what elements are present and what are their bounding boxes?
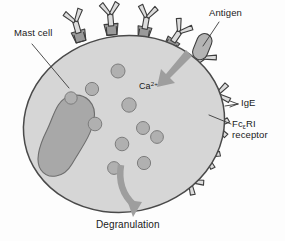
label-fceri-suffix: RI — [246, 118, 256, 129]
label-fceri-receptor: FcεRIreceptor — [232, 119, 268, 141]
granule — [137, 156, 150, 169]
label-degranulation: Degranulation — [96, 219, 160, 230]
receptor-3 — [133, 4, 158, 40]
granule — [88, 117, 102, 131]
label-ige: IgE — [241, 98, 256, 109]
receptor-1 — [62, 7, 90, 44]
receptor-2 — [99, 1, 122, 36]
leader-ige-arrowhead — [230, 101, 238, 107]
label-fceri-receptor-word: receptor — [232, 129, 268, 140]
granule — [151, 131, 164, 144]
label-calcium-charge: 2+ — [151, 80, 158, 87]
granule — [115, 137, 129, 151]
label-antigen: Antigen — [209, 8, 242, 19]
label-mast-cell: Mast cell — [14, 28, 52, 39]
granule — [122, 98, 136, 112]
granule — [65, 92, 77, 104]
granule — [85, 82, 98, 95]
granule — [137, 122, 150, 135]
label-calcium: Ca2+ — [139, 81, 158, 91]
mast-cell-diagram: Mast cell Antigen IgE FcεRIreceptor Ca2+… — [0, 0, 285, 241]
label-calcium-base: Ca — [139, 81, 151, 91]
granule — [111, 64, 125, 78]
label-fceri-prefix: Fc — [232, 118, 243, 129]
